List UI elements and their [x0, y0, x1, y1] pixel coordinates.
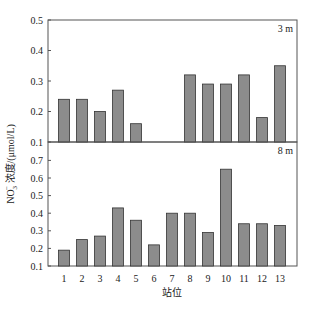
bar-station-12: [257, 224, 268, 266]
bar-station-13: [275, 226, 286, 266]
bar-station-9: [203, 84, 214, 142]
bar-station-2: [77, 99, 88, 142]
y-tick-label: 0.2: [31, 106, 44, 117]
x-tick-label: 3: [98, 273, 103, 284]
x-axis-title: 站位: [162, 286, 182, 298]
y-tick-label: 0.3: [31, 76, 44, 87]
bar-station-1: [59, 99, 70, 142]
panel-depth-label: 8 m: [278, 145, 294, 156]
bar-station-1: [59, 250, 70, 266]
panel-8m: 0.10.20.30.40.50.60.78 m: [31, 142, 298, 272]
x-tick-label: 12: [257, 273, 267, 284]
x-tick-label: 9: [206, 273, 211, 284]
no3-concentration-chart: 0.10.20.30.40.53 m 0.10.20.30.40.50.60.7…: [0, 0, 310, 314]
bar-station-3: [95, 112, 106, 143]
y-tick-label: 0.4: [31, 45, 44, 56]
bar-station-13: [275, 66, 286, 142]
x-tick-label: 10: [221, 273, 231, 284]
bar-station-11: [239, 224, 250, 266]
x-tick-label: 2: [80, 273, 85, 284]
x-tick-label: 13: [275, 273, 285, 284]
y-tick-label: 0.6: [31, 173, 44, 184]
x-tick-label: 6: [152, 273, 157, 284]
x-tick-label: 5: [134, 273, 139, 284]
panel-depth-label: 3 m: [278, 23, 294, 34]
bar-station-7: [167, 213, 178, 266]
bar-station-12: [257, 118, 268, 142]
bar-station-3: [95, 236, 106, 266]
y-tick-label: 0.4: [31, 208, 44, 219]
bar-station-4: [113, 90, 124, 142]
y-tick-label: 0.5: [31, 15, 44, 26]
bar-station-9: [203, 233, 214, 266]
y-tick-label: 0.7: [31, 155, 44, 166]
y-tick-label: 0.1: [31, 261, 44, 272]
panel-3m: 0.10.20.30.40.53 m: [31, 15, 298, 148]
x-tick-label: 8: [188, 273, 193, 284]
x-tick-label: 7: [170, 273, 175, 284]
y-tick-label: 0.1: [31, 137, 44, 148]
bar-station-10: [221, 169, 232, 266]
bar-station-6: [149, 245, 160, 266]
x-axis: 12345678910111213: [62, 273, 286, 284]
bar-station-8: [185, 213, 196, 266]
bar-station-8: [185, 75, 196, 142]
y-axis-title: NO3− 浓度/(μmol/L): [3, 124, 19, 204]
y-tick-label: 0.2: [31, 243, 44, 254]
bar-station-4: [113, 208, 124, 266]
y-tick-label: 0.5: [31, 190, 44, 201]
x-tick-label: 4: [116, 273, 121, 284]
bar-station-2: [77, 240, 88, 266]
x-tick-label: 11: [239, 273, 249, 284]
bar-station-11: [239, 75, 250, 142]
bar-station-10: [221, 84, 232, 142]
x-tick-label: 1: [62, 273, 67, 284]
bar-station-5: [131, 124, 142, 142]
bar-station-5: [131, 220, 142, 266]
y-tick-label: 0.3: [31, 225, 44, 236]
